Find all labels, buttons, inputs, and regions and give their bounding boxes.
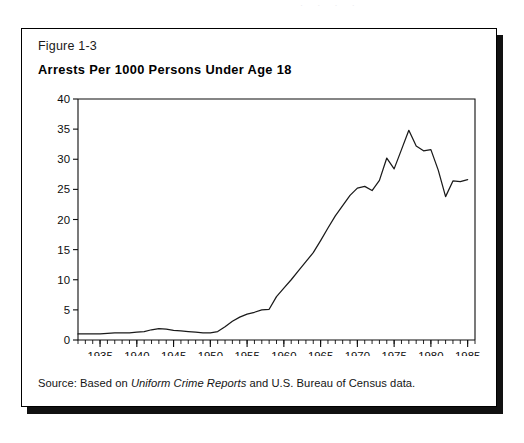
y-axis-tick-labels: 0510152025303540	[57, 93, 70, 346]
x-axis-major-ticks	[100, 340, 468, 347]
svg-text:1980: 1980	[418, 350, 443, 356]
arrest-rate-line	[78, 130, 468, 334]
svg-text:40: 40	[57, 93, 70, 105]
svg-text:1940: 1940	[124, 350, 149, 356]
axis-frame	[78, 99, 475, 340]
svg-text:25: 25	[57, 183, 70, 195]
source-prefix: Source: Based on	[38, 377, 131, 389]
figure-title: Arrests Per 1000 Persons Under Age 18	[38, 62, 292, 77]
source-note: Source: Based on Uniform Crime Reports a…	[38, 377, 415, 389]
page-bleed-text: · · · ·	[300, 0, 510, 12]
svg-text:1965: 1965	[308, 350, 333, 356]
x-axis-tick-labels: 1935194019451950195519601965197019751980…	[87, 350, 480, 356]
svg-text:1955: 1955	[234, 350, 259, 356]
svg-text:30: 30	[57, 153, 70, 165]
y-axis-tick-marks	[73, 99, 78, 340]
svg-text:15: 15	[57, 244, 70, 256]
svg-text:10: 10	[57, 274, 70, 286]
svg-text:1970: 1970	[345, 350, 370, 356]
svg-text:1950: 1950	[198, 350, 223, 356]
source-suffix: and U.S. Bureau of Census data.	[246, 377, 415, 389]
svg-text:1945: 1945	[161, 350, 186, 356]
svg-text:20: 20	[57, 214, 70, 226]
svg-text:1975: 1975	[381, 350, 406, 356]
figure-box: Figure 1-3 Arrests Per 1000 Persons Unde…	[21, 28, 497, 407]
svg-text:1985: 1985	[455, 350, 480, 356]
svg-text:1960: 1960	[271, 350, 296, 356]
source-publication: Uniform Crime Reports	[131, 377, 246, 389]
svg-text:35: 35	[57, 123, 70, 135]
line-chart: 0510152025303540 19351940194519501955196…	[38, 91, 482, 356]
svg-text:1935: 1935	[87, 350, 112, 356]
svg-text:5: 5	[64, 304, 70, 316]
figure-label: Figure 1-3	[38, 39, 97, 53]
x-axis-minor-ticks	[78, 340, 475, 344]
svg-text:0: 0	[64, 334, 70, 346]
chart-plot-area: 0510152025303540 19351940194519501955196…	[38, 91, 482, 356]
